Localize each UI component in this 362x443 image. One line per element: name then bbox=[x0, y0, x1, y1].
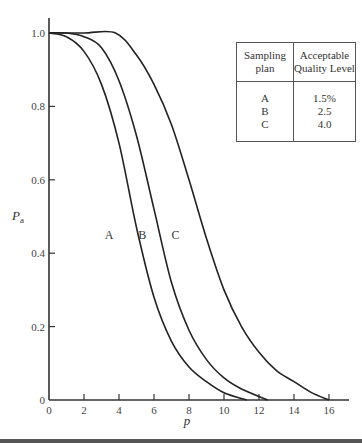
legend-table: Samplingplan AcceptableQuality Level A B… bbox=[236, 42, 356, 142]
x-tick-label: 2 bbox=[81, 404, 87, 416]
y-tick-label: 1.0 bbox=[31, 27, 45, 39]
legend-header: Samplingplan AcceptableQuality Level bbox=[237, 43, 355, 82]
legend-aql-c: 4.0 bbox=[318, 118, 332, 131]
bottom-rule bbox=[0, 439, 362, 443]
x-axis-label: p bbox=[183, 413, 191, 428]
legend-plan-a: A bbox=[261, 92, 269, 105]
y-tick-label: 0 bbox=[40, 394, 46, 406]
x-tick-label: 6 bbox=[151, 404, 157, 416]
x-tick-label: 0 bbox=[46, 404, 52, 416]
legend-body: A B C 1.5% 2.5 4.0 bbox=[237, 82, 355, 141]
x-tick-label: 12 bbox=[254, 404, 265, 416]
x-tick-label: 10 bbox=[219, 404, 231, 416]
y-tick-label: 0.4 bbox=[31, 247, 45, 259]
curve-label-a: A bbox=[105, 228, 114, 242]
legend-aql-a: 1.5% bbox=[313, 92, 336, 105]
legend-header-aql: AcceptableQuality Level bbox=[294, 43, 355, 81]
y-tick-label: 0.6 bbox=[31, 174, 45, 186]
y-tick-label: 0.8 bbox=[31, 100, 45, 112]
curve-label-c: C bbox=[171, 228, 179, 242]
legend-plan-b: B bbox=[261, 105, 268, 118]
curve-b bbox=[49, 33, 268, 400]
x-tick-label: 4 bbox=[116, 404, 122, 416]
legend-aql-b: 2.5 bbox=[318, 105, 332, 118]
curve-labels: ABC bbox=[105, 228, 180, 242]
x-tick-label: 16 bbox=[324, 404, 336, 416]
y-tick-label: 0.2 bbox=[31, 321, 45, 333]
legend-header-plan: Samplingplan bbox=[237, 43, 294, 81]
x-tick-label: 14 bbox=[289, 404, 301, 416]
legend-plan-c: C bbox=[261, 118, 268, 131]
y-axis-label: Pa bbox=[11, 208, 24, 225]
legend-plan-column: A B C bbox=[237, 82, 294, 141]
legend-aql-column: 1.5% 2.5 4.0 bbox=[294, 82, 355, 141]
curve-label-b: B bbox=[138, 228, 146, 242]
curve-a bbox=[49, 33, 247, 400]
